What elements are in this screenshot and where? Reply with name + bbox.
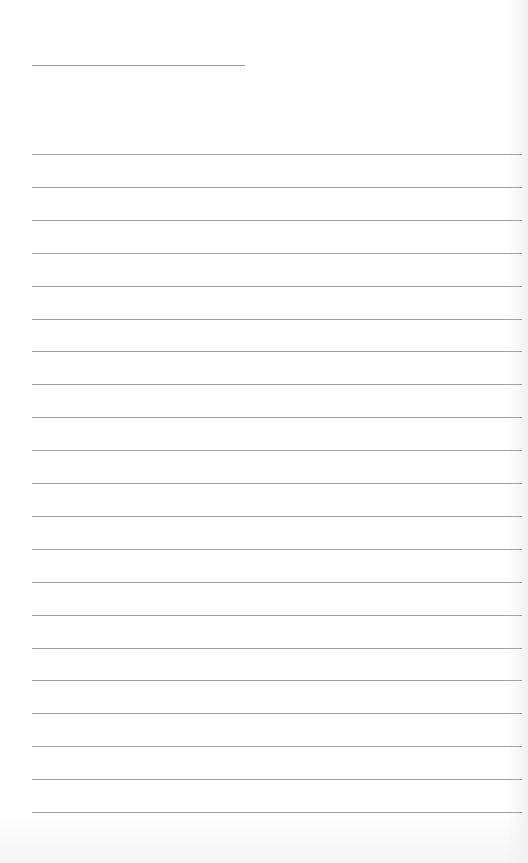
ruled-line xyxy=(32,154,522,155)
ruled-line xyxy=(32,648,522,649)
ruled-line xyxy=(32,220,522,221)
ruled-line xyxy=(32,582,522,583)
ruled-line xyxy=(32,384,522,385)
ruled-line xyxy=(32,812,522,813)
ruled-line xyxy=(32,286,522,287)
page-shadow xyxy=(0,813,528,863)
ruled-line xyxy=(32,680,522,681)
ruled-line xyxy=(32,319,522,320)
ruled-line xyxy=(32,779,522,780)
ruled-line xyxy=(32,746,522,747)
ruled-line xyxy=(32,615,522,616)
ruled-line xyxy=(32,351,522,352)
ruled-line xyxy=(32,549,522,550)
ruled-line xyxy=(32,483,522,484)
ruled-line xyxy=(32,713,522,714)
header-title-line xyxy=(32,65,245,66)
ruled-line xyxy=(32,253,522,254)
lined-paper-page xyxy=(0,0,528,863)
ruled-line xyxy=(32,450,522,451)
ruled-line xyxy=(32,187,522,188)
ruled-line xyxy=(32,417,522,418)
ruled-line xyxy=(32,516,522,517)
